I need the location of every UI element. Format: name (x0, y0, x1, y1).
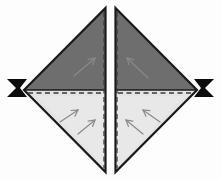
origami-illustration (0, 0, 221, 179)
origami-diagram: Origami fold step diagram Square sheet r… (0, 0, 221, 179)
